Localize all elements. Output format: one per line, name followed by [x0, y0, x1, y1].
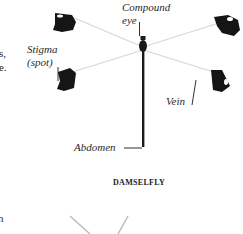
abdomen-label: Abdomen: [74, 142, 116, 153]
wing-tip-lower-left: [57, 68, 76, 91]
left-edge-text-fragment-3: n: [0, 213, 4, 224]
stigma-label: Stigma (spot): [27, 44, 58, 68]
left-edge-text-fragment-2: e.: [0, 62, 7, 73]
wing-tip-upper-left: [53, 13, 76, 32]
partial-next-figure: [70, 216, 128, 234]
abdomen: [142, 50, 144, 147]
stigma-label-line2: (spot): [27, 57, 58, 68]
stigma-label-line1: Stigma: [27, 44, 58, 55]
damselfly-body: [139, 36, 147, 147]
vein-label: Vein: [166, 96, 185, 107]
wing-tip-upper-right: [214, 15, 240, 36]
leader-lines: [58, 22, 196, 148]
damselfly-illustration: [0, 0, 243, 234]
left-edge-text-fragment-1: s,: [0, 48, 6, 59]
compound-eye-label: Compound eye: [122, 2, 170, 26]
figure-title: DAMSELFLY: [113, 178, 165, 187]
compound-eye-label-line2: eye: [122, 15, 170, 26]
head: [141, 36, 146, 40]
compound-eye-label-line1: Compound: [122, 2, 170, 13]
